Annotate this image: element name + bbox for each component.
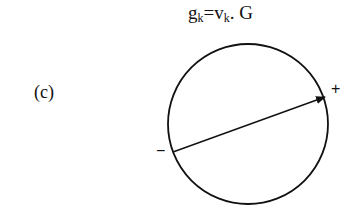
- minus-sign: −: [156, 142, 165, 160]
- plus-sign: +: [331, 80, 340, 98]
- vector-arrow: [173, 97, 325, 152]
- circle: [168, 44, 328, 204]
- circle-diagram: [0, 0, 348, 213]
